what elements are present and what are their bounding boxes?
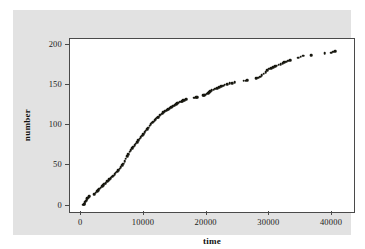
x-axis-label: time bbox=[203, 236, 221, 246]
x-tick-mark bbox=[206, 211, 207, 215]
x-tick-mark bbox=[331, 211, 332, 215]
x-tick-label: 10000 bbox=[132, 217, 154, 227]
figure-panel: 050100150200 010000200003000040000 numbe… bbox=[13, 10, 351, 235]
x-tick-mark bbox=[268, 211, 269, 215]
x-tick-label: 40000 bbox=[320, 217, 342, 227]
x-tick-label: 0 bbox=[78, 217, 82, 227]
chart-screenshot: 050100150200 010000200003000040000 numbe… bbox=[0, 0, 365, 249]
x-tick-label: 30000 bbox=[257, 217, 279, 227]
y-axis-label: number bbox=[22, 109, 32, 141]
x-axis-ticks: 010000200003000040000 bbox=[13, 10, 351, 235]
x-tick-mark bbox=[143, 211, 144, 215]
x-tick-mark bbox=[80, 211, 81, 215]
x-tick-label: 20000 bbox=[195, 217, 217, 227]
